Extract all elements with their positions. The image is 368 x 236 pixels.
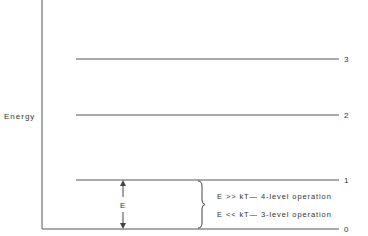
level-0-label: 0: [344, 225, 349, 234]
axis-label: Energy: [4, 112, 35, 121]
condition-3-level: E << kT— 3-level operation: [217, 210, 332, 219]
brace-icon: [198, 181, 205, 228]
energy-level-diagram: Energy 3 2 1 0 E E >> kT— 4-level operat…: [0, 0, 368, 236]
level-3-label: 3: [344, 55, 349, 64]
level-2-label: 2: [344, 111, 349, 120]
level-1-label: 1: [344, 176, 349, 185]
gap-label: E: [120, 201, 125, 210]
condition-4-level: E >> kT— 4-level operation: [217, 192, 332, 201]
